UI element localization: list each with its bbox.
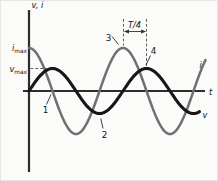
imax-label: imax — [12, 43, 28, 54]
vmax-label: vmax — [9, 64, 27, 75]
point-label-4: 4 — [151, 46, 157, 56]
point-label-1: 1 — [43, 105, 49, 115]
waveform-figure: v, i imax vmax T/4 1 2 3 4 t i v — [0, 0, 218, 181]
voltage-end-label: v — [203, 110, 209, 120]
leader-line-2 — [101, 119, 103, 129]
quarter-period-label: T/4 — [128, 20, 141, 30]
point-label-3: 3 — [106, 33, 112, 43]
point-label-2: 2 — [102, 130, 108, 140]
y-axis-label: v, i — [32, 0, 45, 10]
arrow-right-icon — [141, 30, 146, 34]
leader-line-1 — [47, 95, 52, 105]
figure-canvas: v, i imax vmax T/4 1 2 3 4 t i v — [0, 0, 218, 181]
leader-line-3 — [112, 37, 119, 45]
x-axis-label: t — [209, 87, 213, 97]
arrow-left-icon — [124, 30, 129, 34]
imax-subscript: max — [14, 48, 27, 54]
vmax-subscript: max — [14, 69, 27, 75]
